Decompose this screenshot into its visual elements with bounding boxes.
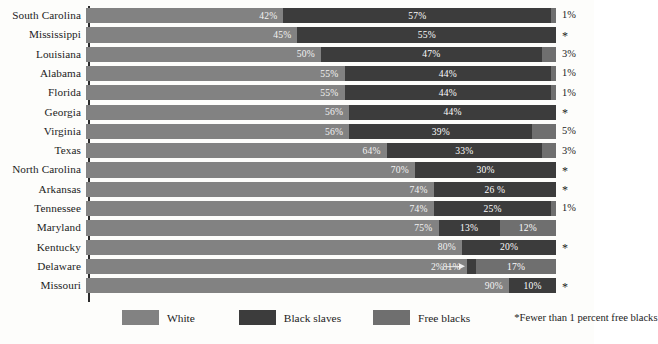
chart-row: Georgia56%44%*: [0, 102, 594, 121]
row-right-note: *: [556, 107, 594, 119]
segment-white-value: 50%: [297, 49, 321, 59]
chart-footnote: *Fewer than 1 percent free blacks: [514, 312, 657, 323]
row-right-note: 1%: [556, 88, 594, 98]
segment-black-slaves: 44%: [345, 66, 552, 81]
row-right-note: *: [556, 165, 594, 177]
legend-swatch-black-slaves: [239, 310, 276, 325]
segment-black-slaves-value: 20%: [500, 242, 518, 252]
segment-black-slaves: 10%: [509, 278, 556, 293]
chart-row: Mississippi45%55%*: [0, 25, 594, 44]
row-right-note: 5%: [556, 126, 594, 136]
stacked-bar: 42%57%: [86, 8, 556, 23]
segment-black-slaves-value: 39%: [432, 127, 450, 137]
state-label: Florida: [0, 87, 86, 98]
legend-swatch-white: [122, 310, 159, 325]
state-label: South Carolina: [0, 10, 86, 21]
legend-label-white: White: [159, 312, 195, 324]
segment-white: 55%: [86, 85, 345, 100]
chart-row: Florida55%44%1%: [0, 83, 594, 102]
segment-free-blacks-value: 12%: [519, 223, 537, 233]
legend-item-black-slaves: Black slaves: [239, 310, 341, 325]
stacked-bar: 50%47%: [86, 47, 556, 62]
segment-black-slaves: 33%: [387, 143, 542, 158]
stacked-bar: 75%13%12%: [86, 220, 556, 235]
segment-black-slaves: 25%: [434, 201, 552, 216]
stacked-bar: 81%2%17%: [86, 259, 556, 274]
segment-free-blacks: 17%: [476, 259, 556, 274]
segment-black-slaves: 2%: [467, 259, 476, 274]
chart-row: South Carolina42%57%1%: [0, 6, 594, 25]
chart-row: Missouri90%10%*: [0, 276, 594, 295]
legend-label-free-blacks: Free blacks: [410, 312, 470, 324]
callout-arrow-icon: [446, 263, 466, 270]
legend-item-free-blacks: Free blacks: [373, 310, 470, 325]
segment-free-blacks: [551, 85, 556, 100]
row-right-note: 1%: [556, 10, 594, 20]
segment-black-slaves-value: 44%: [439, 88, 457, 98]
segment-white-value: 45%: [273, 30, 297, 40]
segment-white: 74%: [86, 182, 434, 197]
segment-white: 50%: [86, 47, 321, 62]
segment-white: 80%: [86, 240, 462, 255]
segment-white: 75%: [86, 220, 439, 235]
segment-white-value: 74%: [410, 204, 434, 214]
segment-white: 56%: [86, 124, 349, 139]
stacked-bar: 80%20%: [86, 240, 556, 255]
segment-black-slaves-value: 55%: [418, 30, 436, 40]
segment-free-blacks: [551, 8, 556, 23]
stacked-bar: 74%25%: [86, 201, 556, 216]
segment-free-blacks: [532, 124, 556, 139]
state-label: Kentucky: [0, 242, 86, 253]
chart-row: North Carolina70%30%*: [0, 160, 594, 179]
state-label: Georgia: [0, 107, 86, 118]
segment-free-blacks-value: 17%: [507, 262, 525, 272]
segment-black-slaves-value: 26 %: [484, 185, 505, 195]
state-label: Delaware: [0, 261, 86, 272]
value-callout: 2%: [431, 262, 467, 272]
state-label: Alabama: [0, 68, 86, 79]
chart-row: Alabama55%44%1%: [0, 64, 594, 83]
state-label: Maryland: [0, 222, 86, 233]
segment-black-slaves-value: 2%: [431, 262, 444, 272]
state-label: Mississippi: [0, 29, 86, 40]
segment-black-slaves: 26 %: [434, 182, 556, 197]
legend-label-black-slaves: Black slaves: [276, 312, 341, 324]
chart-legend: White Black slaves Free blacks *Fewer th…: [0, 310, 594, 325]
segment-black-slaves: 20%: [462, 240, 556, 255]
state-label: Arkansas: [0, 184, 86, 195]
stacked-bar: 56%39%: [86, 124, 556, 139]
segment-black-slaves: 55%: [297, 27, 556, 42]
segment-white: 64%: [86, 143, 387, 158]
segment-white: 55%: [86, 66, 345, 81]
segment-free-blacks: [551, 201, 556, 216]
segment-white-value: 42%: [259, 11, 283, 21]
segment-white-value: 56%: [325, 127, 349, 137]
segment-black-slaves: 57%: [283, 8, 551, 23]
segment-white: 74%: [86, 201, 434, 216]
legend-item-white: White: [122, 310, 195, 325]
segment-white: 45%: [86, 27, 298, 42]
segment-white: 42%: [86, 8, 283, 23]
stacked-bar: 45%55%: [86, 27, 556, 42]
segment-white: 70%: [86, 162, 415, 177]
segment-white-value: 75%: [414, 223, 438, 233]
stacked-bar: 55%44%: [86, 66, 556, 81]
stacked-bar: 74%26 %: [86, 182, 556, 197]
segment-free-blacks: [551, 66, 556, 81]
segment-black-slaves-value: 33%: [455, 146, 473, 156]
segment-white-value: 64%: [363, 146, 387, 156]
segment-free-blacks: 12%: [500, 220, 556, 235]
state-label: North Carolina: [0, 164, 86, 175]
segment-black-slaves: 44%: [349, 105, 556, 120]
segment-white: 56%: [86, 105, 349, 120]
segment-black-slaves-value: 44%: [443, 107, 461, 117]
segment-black-slaves: 30%: [415, 162, 556, 177]
segment-free-blacks: [542, 47, 556, 62]
stacked-bar: 64%33%: [86, 143, 556, 158]
segment-black-slaves-value: 47%: [422, 49, 440, 59]
segment-black-slaves: 44%: [345, 85, 552, 100]
segment-black-slaves-value: 44%: [439, 69, 457, 79]
row-right-note: 3%: [556, 146, 594, 156]
chart-row: Delaware81%2%17%: [0, 257, 594, 276]
chart-row: Virginia56%39%5%: [0, 122, 594, 141]
